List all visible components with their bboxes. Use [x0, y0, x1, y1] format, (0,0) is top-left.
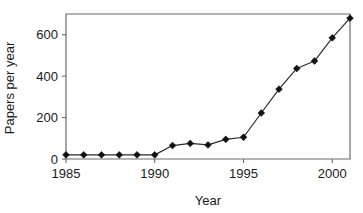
- papers-per-year-line-chart: 0200400600 1985199019952000 Year Papers …: [0, 0, 363, 213]
- y-tick-label-600: 600: [36, 27, 58, 42]
- y-tick-label-0: 0: [51, 152, 58, 167]
- y-axis-title: Papers per year: [2, 41, 17, 134]
- x-tick-label-1990: 1990: [140, 166, 169, 181]
- x-tick-label-1995: 1995: [229, 166, 258, 181]
- x-axis-title: Year: [195, 193, 222, 208]
- y-tick-label-200: 200: [36, 110, 58, 125]
- x-tick-label-1985: 1985: [52, 166, 81, 181]
- chart-container: 0200400600 1985199019952000 Year Papers …: [0, 0, 363, 213]
- y-tick-label-400: 400: [36, 69, 58, 84]
- x-tick-label-2000: 2000: [318, 166, 347, 181]
